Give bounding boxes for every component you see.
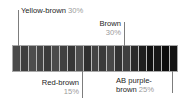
band-lane bbox=[13, 46, 21, 71]
label-ab-purple-brown: AB purple- brown 25% bbox=[116, 76, 170, 94]
band-lane bbox=[68, 46, 76, 71]
leader-line-yellow-brown bbox=[18, 10, 19, 46]
band-lane bbox=[170, 46, 177, 71]
band-lane bbox=[44, 46, 52, 71]
band-lane bbox=[123, 46, 131, 71]
band-lane bbox=[76, 46, 84, 71]
band-lane bbox=[37, 46, 45, 71]
band-strip bbox=[12, 45, 178, 72]
band-lane bbox=[29, 46, 37, 71]
band-lane bbox=[92, 46, 100, 71]
label-yellow-brown-name: Yellow-brown bbox=[21, 6, 66, 15]
label-red-brown: Red-brown 15% bbox=[26, 78, 79, 96]
label-brown-percent: 30% bbox=[76, 28, 121, 37]
band-lane bbox=[107, 46, 115, 71]
label-red-brown-percent: 15% bbox=[26, 87, 79, 96]
leader-line-brown bbox=[124, 22, 125, 46]
leader-line-ab-purple-brown bbox=[172, 71, 173, 93]
leader-line-red-brown bbox=[82, 71, 83, 98]
label-ab-purple-brown-line2: brown 25% bbox=[116, 85, 170, 94]
band-lane bbox=[115, 46, 123, 71]
label-ab-purple-brown-percent: 25% bbox=[139, 85, 154, 94]
band-lane bbox=[21, 46, 29, 71]
band-lane bbox=[84, 46, 92, 71]
band-lane bbox=[147, 46, 155, 71]
band-lane bbox=[139, 46, 147, 71]
band-lane bbox=[60, 46, 68, 71]
band-lane bbox=[131, 46, 139, 71]
label-yellow-brown-percent: 30% bbox=[68, 6, 83, 15]
band-lane bbox=[154, 46, 162, 71]
label-red-brown-name: Red-brown bbox=[26, 78, 79, 87]
band-lane bbox=[99, 46, 107, 71]
banded-strip-figure: Yellow-brown 30% Brown 30% Red-brown 15%… bbox=[0, 0, 187, 105]
band-lane bbox=[162, 46, 170, 71]
band-lane bbox=[52, 46, 60, 71]
label-brown: Brown 30% bbox=[76, 19, 121, 37]
label-yellow-brown: Yellow-brown 30% bbox=[21, 6, 83, 15]
label-ab-purple-brown-name-line1: AB purple- bbox=[116, 76, 170, 85]
label-ab-purple-brown-name-line2: brown bbox=[116, 85, 137, 94]
label-brown-name: Brown bbox=[76, 19, 121, 28]
